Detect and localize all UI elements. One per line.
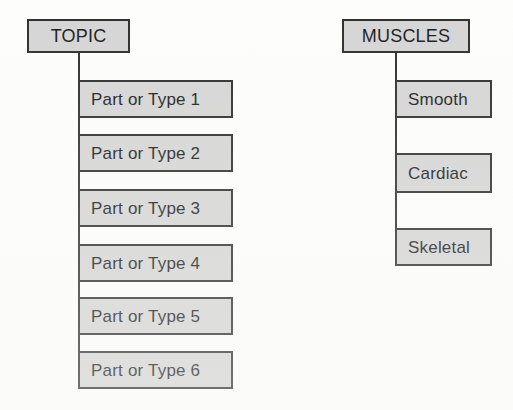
- node-muscles-root[interactable]: MUSCLES: [342, 19, 470, 53]
- node-part-or-type-3-label: Part or Type 3: [91, 200, 200, 217]
- node-part-or-type-2[interactable]: Part or Type 2: [78, 134, 233, 172]
- node-part-or-type-1[interactable]: Part or Type 1: [78, 80, 233, 118]
- node-topic-root-label: TOPIC: [51, 27, 107, 45]
- node-part-or-type-5-label: Part or Type 5: [91, 308, 200, 325]
- node-part-or-type-4-label: Part or Type 4: [91, 255, 200, 272]
- node-part-or-type-5[interactable]: Part or Type 5: [78, 297, 233, 335]
- node-part-or-type-4[interactable]: Part or Type 4: [78, 244, 233, 282]
- node-skeletal-label: Skeletal: [408, 239, 470, 256]
- node-part-or-type-2-label: Part or Type 2: [91, 145, 200, 162]
- node-part-or-type-6-label: Part or Type 6: [91, 362, 200, 379]
- node-cardiac[interactable]: Cardiac: [395, 153, 492, 193]
- node-part-or-type-1-label: Part or Type 1: [91, 91, 200, 108]
- node-smooth-label: Smooth: [408, 91, 468, 108]
- diagram-canvas: TOPIC Part or Type 1 Part or Type 2 Part…: [0, 0, 513, 410]
- node-part-or-type-3[interactable]: Part or Type 3: [78, 189, 233, 227]
- node-smooth[interactable]: Smooth: [395, 80, 492, 118]
- node-topic-root[interactable]: TOPIC: [27, 19, 130, 53]
- node-muscles-root-label: MUSCLES: [362, 27, 450, 45]
- node-skeletal[interactable]: Skeletal: [395, 228, 492, 266]
- node-part-or-type-6[interactable]: Part or Type 6: [78, 351, 233, 389]
- node-cardiac-label: Cardiac: [408, 165, 468, 182]
- paper-tint-overlay: [0, 0, 513, 410]
